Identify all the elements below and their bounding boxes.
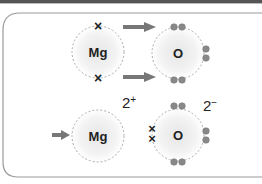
electron-dot (171, 77, 178, 84)
electron-dot (179, 24, 186, 31)
transfer-arrow-bottom (123, 72, 156, 82)
o-atom: O (152, 24, 209, 84)
electron-dot (171, 103, 178, 110)
mg-ion-symbol: Mg (89, 129, 108, 144)
mg-atom: Mg × × (72, 18, 124, 86)
transfer-arrow-top (123, 22, 156, 32)
result-arrow (52, 130, 70, 140)
electron-dot (179, 159, 186, 166)
ionic-bond-diagram: Mg × × O Mg 2+ O 2− (0, 0, 262, 184)
electron-dot (203, 128, 210, 135)
gained-electron-cross-bottom: × (148, 131, 156, 146)
electron-dot (203, 137, 210, 144)
mg-ion: Mg 2+ (72, 94, 136, 162)
mg-electron-cross-top: × (94, 18, 102, 34)
electron-dot (203, 55, 210, 62)
mg-electron-cross-bottom: × (94, 70, 102, 86)
mg-atom-symbol: Mg (89, 45, 108, 60)
o-ion: O 2− × × (148, 97, 217, 165)
o-atom-symbol: O (173, 46, 183, 61)
electron-dot (179, 103, 186, 110)
mg-ion-charge: 2+ (122, 94, 136, 111)
electron-dot (171, 24, 178, 31)
electron-dot (203, 46, 210, 53)
o-ion-charge: 2− (203, 97, 217, 114)
electron-dot (179, 77, 186, 84)
electron-dot (171, 159, 178, 166)
o-ion-symbol: O (173, 128, 183, 143)
